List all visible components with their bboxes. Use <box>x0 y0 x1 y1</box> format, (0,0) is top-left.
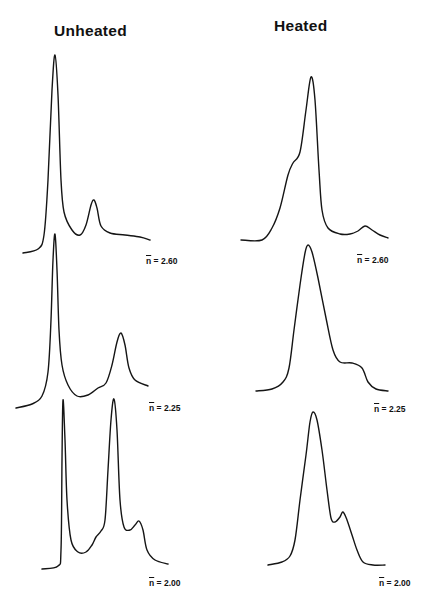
trace-unheated-2-25 <box>16 234 148 408</box>
n-bar-symbol: n <box>374 404 379 414</box>
n-bar-symbol: n <box>379 578 384 588</box>
n-label-unheated-2-60: n = 2.60 <box>146 256 177 266</box>
trace-unheated-2-00 <box>42 399 168 569</box>
n-bar-symbol: n <box>149 578 154 588</box>
n-label-unheated-2-00: n = 2.00 <box>149 578 180 588</box>
trace-heated-2-25 <box>256 245 388 391</box>
chart-traces <box>0 0 430 602</box>
n-label-heated-2-25: n = 2.25 <box>374 404 405 414</box>
n-bar-symbol: n <box>146 256 151 266</box>
trace-heated-2-00 <box>268 412 385 565</box>
n-bar-symbol: n <box>149 403 154 413</box>
n-bar-symbol: n <box>357 255 362 265</box>
n-label-unheated-2-25: n = 2.25 <box>149 403 180 413</box>
n-value: = 2.00 <box>387 578 411 588</box>
n-label-heated-2-00: n = 2.00 <box>379 578 410 588</box>
n-value: = 2.00 <box>157 578 181 588</box>
n-value: = 2.25 <box>157 403 181 413</box>
n-value: = 2.25 <box>382 404 406 414</box>
trace-heated-2-60 <box>241 77 388 241</box>
trace-unheated-2-60 <box>23 55 150 253</box>
n-value: = 2.60 <box>365 255 389 265</box>
n-value: = 2.60 <box>154 256 178 266</box>
n-label-heated-2-60: n = 2.60 <box>357 255 388 265</box>
